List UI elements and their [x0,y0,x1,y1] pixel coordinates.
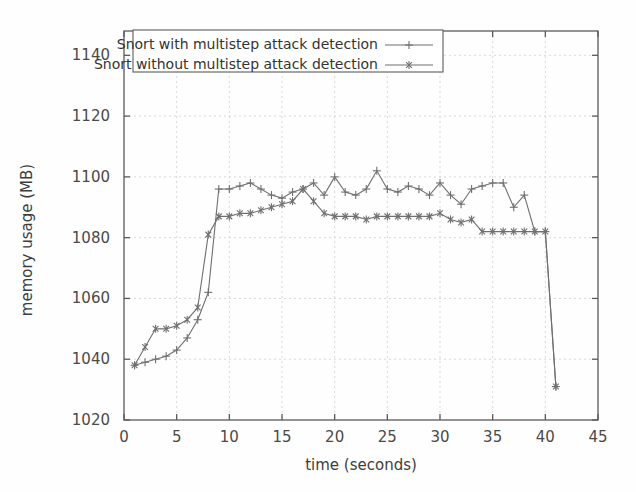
x-tick-label: 10 [220,428,239,446]
y-tick-label: 1080 [72,229,110,247]
data-point-marker [236,182,244,190]
memory-usage-line-chart: 0510152025303540451020104010601080110011… [0,0,636,492]
data-point-marker [341,188,349,196]
x-tick-label: 20 [325,428,344,446]
data-point-marker [478,182,486,190]
x-tick-label: 5 [172,428,182,446]
x-tick-label: 25 [378,428,397,446]
data-point-marker [383,185,391,193]
x-tick-label: 0 [119,428,129,446]
axis-ticks [124,31,598,420]
y-tick-label: 1100 [72,168,110,186]
y-tick-label: 1020 [72,411,110,429]
x-tick-label: 45 [588,428,607,446]
legend-label-1: Snort with multistep attack detection [117,36,378,52]
data-point-marker [352,191,360,199]
data-point-marker [204,288,212,296]
data-point-marker [373,167,381,175]
plot-frame [124,31,598,420]
data-point-marker [246,179,254,187]
legend-label-2: Snort without multistep attack detection [94,56,378,72]
y-axis-label: memory usage (MB) [18,164,36,316]
data-point-marker [257,185,265,193]
x-axis-label: time (seconds) [305,456,417,474]
data-point-marker [404,182,412,190]
data-point-marker [415,185,423,193]
data-point-marker [362,185,370,193]
y-tick-label: 1120 [72,107,110,125]
x-tick-label: 40 [536,428,555,446]
data-point-marker [437,209,443,217]
y-tick-label: 1060 [72,289,110,307]
data-point-marker [468,185,476,193]
data-point-marker [269,203,275,211]
data-point-marker [174,322,180,330]
series-2 [132,185,559,391]
data-series [131,167,560,391]
data-point-marker [141,358,149,366]
data-point-marker [267,191,275,199]
data-point-marker [331,173,339,181]
x-tick-label: 30 [430,428,449,446]
x-tick-label: 35 [483,428,502,446]
data-point-marker [499,179,507,187]
series-line-1 [135,171,556,387]
data-point-marker [225,185,233,193]
data-point-marker [152,355,160,363]
data-point-marker [289,188,297,196]
data-point-marker [489,179,497,187]
data-point-marker [194,316,202,324]
data-point-marker [162,352,170,360]
data-point-marker [458,218,464,226]
chart-legend: Snort with multistep attack detectionSno… [94,30,443,72]
gridlines [124,31,598,420]
x-tick-label: 15 [272,428,291,446]
axis-tick-labels: 0510152025303540451020104010601080110011… [72,46,608,446]
data-point-marker [279,200,285,208]
data-point-marker [215,185,223,193]
data-point-marker [394,188,402,196]
chart-container: 0510152025303540451020104010601080110011… [0,0,636,492]
data-point-marker [363,215,369,223]
data-point-marker [258,206,264,214]
y-tick-label: 1040 [72,350,110,368]
data-point-marker [448,215,454,223]
series-1 [131,167,560,391]
